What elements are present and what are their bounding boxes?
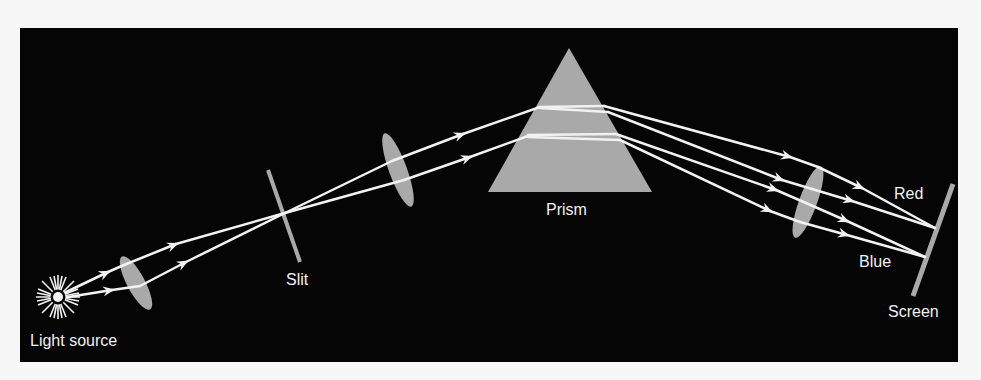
label-blue: Blue (859, 253, 891, 270)
diagram-canvas: Light source Slit Prism Red Blue Screen (0, 0, 981, 380)
label-screen: Screen (888, 303, 939, 320)
label-slit: Slit (286, 271, 309, 288)
label-light-source: Light source (30, 332, 117, 349)
prism-spectrometer-diagram: Light source Slit Prism Red Blue Screen (0, 0, 981, 380)
label-prism: Prism (546, 201, 587, 218)
light-source-icon (36, 275, 80, 319)
label-red: Red (894, 185, 923, 202)
